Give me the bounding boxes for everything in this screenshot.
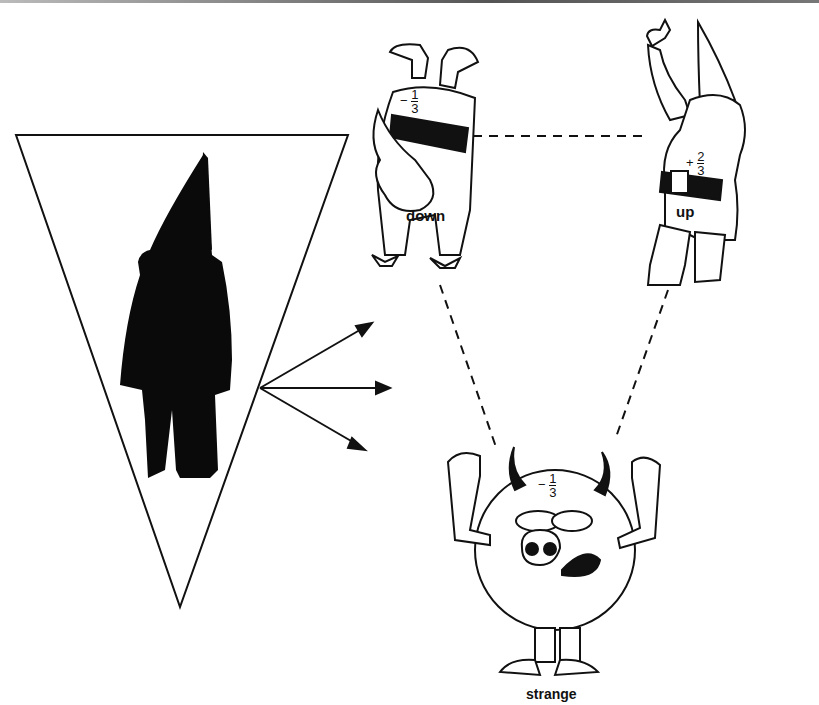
charge-sign: − [400, 93, 408, 108]
down-label: down [406, 207, 445, 224]
up-charge: + 2 3 [686, 150, 704, 177]
charge-denominator: 3 [411, 102, 418, 115]
down-quark-figure [372, 44, 478, 268]
charge-numerator: 1 [549, 472, 556, 486]
charge-numerator: 1 [411, 88, 418, 102]
arrows [260, 323, 390, 450]
charge-denominator: 3 [549, 486, 556, 499]
charge-denominator: 3 [697, 164, 704, 177]
charge-sign: + [686, 155, 694, 170]
charge-sign: − [538, 477, 546, 492]
silhouette-figure [120, 152, 232, 478]
dashed-links [440, 136, 668, 450]
up-label: up [676, 203, 694, 220]
down-charge: − 1 3 [400, 88, 418, 115]
charge-numerator: 2 [697, 150, 704, 164]
strange-charge: − 1 3 [538, 472, 556, 499]
strange-label: strange [526, 686, 577, 702]
